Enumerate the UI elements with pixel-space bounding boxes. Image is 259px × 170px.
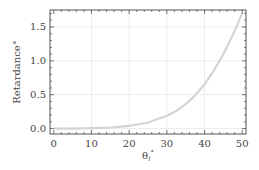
x-tick-label: 50 xyxy=(236,138,249,149)
x-axis-label-sup: ° xyxy=(150,149,154,157)
x-tick-label: 40 xyxy=(198,138,211,149)
plot-frame xyxy=(50,10,246,134)
y-tick-label: 0.0 xyxy=(30,123,46,134)
y-tick-label: 0.5 xyxy=(30,89,46,100)
y-axis-label: Retardance° xyxy=(11,40,22,104)
grid-lines xyxy=(50,10,246,134)
x-tick-labels: 01020304050 xyxy=(51,138,249,149)
y-tick-label: 1.0 xyxy=(30,55,46,66)
tick-marks xyxy=(50,10,246,134)
y-tick-label: 1.5 xyxy=(30,21,46,32)
x-axis-label: θi° xyxy=(142,149,154,163)
retardance-curve xyxy=(54,13,242,128)
y-tick-labels: 0.00.51.01.5 xyxy=(30,21,46,134)
x-tick-label: 30 xyxy=(160,138,173,149)
retardance-chart: 01020304050 0.00.51.01.5 θi° Retardance° xyxy=(0,0,259,170)
x-tick-label: 10 xyxy=(85,138,98,149)
data-series-retardance xyxy=(54,13,242,128)
x-tick-label: 0 xyxy=(51,138,57,149)
x-tick-label: 20 xyxy=(123,138,136,149)
